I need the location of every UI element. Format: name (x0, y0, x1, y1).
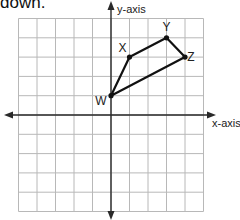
vertex-label-z: Z (187, 50, 194, 64)
y-axis-label: y-axis (117, 3, 146, 15)
coordinate-plane: x-axis y-axis WXYZ (0, 0, 240, 220)
x-axis-arrow-left-icon (4, 112, 13, 119)
axes: x-axis y-axis (4, 1, 240, 220)
vertex-label-w: W (95, 94, 107, 108)
y-axis-arrow-down-icon (108, 211, 115, 220)
vertex-point-x (127, 55, 132, 60)
polygon-vertices: WXYZ (95, 20, 194, 108)
x-axis-label: x-axis (212, 117, 240, 129)
vertex-point-y (164, 35, 169, 40)
vertex-point-w (108, 93, 113, 98)
vertex-label-x: X (118, 41, 126, 55)
y-axis-arrow-up-icon (108, 1, 115, 10)
vertex-label-y: Y (162, 20, 170, 34)
